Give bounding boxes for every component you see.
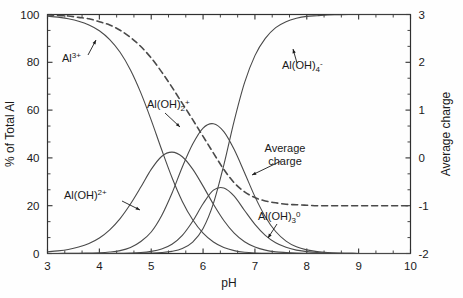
x-tick-label: 9 bbox=[355, 260, 361, 272]
annotation-label: Average bbox=[265, 142, 306, 154]
x-tick-label: 4 bbox=[96, 260, 103, 272]
annotation-arrowhead bbox=[252, 172, 256, 175]
x-tick-label: 10 bbox=[404, 260, 417, 272]
annotation-arrowhead bbox=[293, 49, 296, 53]
right-y-tick-label: 1 bbox=[419, 104, 425, 116]
annotation-label: Al(OH)30 bbox=[258, 210, 301, 225]
right-y-tick-label: 3 bbox=[419, 9, 425, 21]
speciation-chart: 345678910020406080100-2-10123pH% of Tota… bbox=[0, 0, 463, 298]
left-y-tick-label: 0 bbox=[33, 248, 39, 260]
x-axis-label: pH bbox=[221, 276, 236, 290]
annotation-leader bbox=[252, 161, 281, 175]
series-curve-aloh4 bbox=[48, 14, 411, 253]
right-y-tick-label: -1 bbox=[419, 200, 429, 212]
annotation-label: Al(OH)2+ bbox=[147, 98, 190, 113]
series-curve-aloh2 bbox=[48, 152, 411, 253]
x-tick-label: 3 bbox=[44, 260, 50, 272]
series-curve-al3 bbox=[48, 16, 411, 253]
x-tick-label: 5 bbox=[148, 260, 154, 272]
right-y-tick-label: -2 bbox=[419, 248, 429, 260]
left-y-tick-label: 20 bbox=[27, 200, 40, 212]
series-curve-aloh30 bbox=[48, 188, 411, 254]
annotation-avgcharge: Averagecharge bbox=[252, 142, 305, 175]
x-tick-label: 6 bbox=[200, 260, 206, 272]
y-right-axis-label: Average charge bbox=[439, 91, 453, 176]
annotation-aloh3: Al(OH)30 bbox=[258, 210, 301, 238]
plot-frame bbox=[48, 15, 411, 254]
annotation-al3: Al3+ bbox=[62, 40, 96, 64]
left-y-tick-label: 100 bbox=[20, 9, 39, 21]
speciation-figure: 345678910020406080100-2-10123pH% of Tota… bbox=[0, 0, 463, 298]
right-y-tick-label: 2 bbox=[419, 56, 425, 68]
left-y-tick-label: 60 bbox=[27, 104, 40, 116]
left-y-tick-label: 40 bbox=[27, 152, 40, 164]
series-curve-averagecharge bbox=[48, 15, 411, 206]
annotation-label: Al(OH)2+ bbox=[64, 188, 107, 201]
x-tick-label: 7 bbox=[252, 260, 258, 272]
annotation-arrowhead bbox=[93, 40, 96, 44]
annotation-aloh4: Al(OH)4- bbox=[282, 49, 323, 74]
left-y-tick-label: 80 bbox=[27, 56, 40, 68]
x-tick-label: 8 bbox=[304, 260, 310, 272]
annotation-arrowhead bbox=[136, 207, 140, 210]
annotation-label: Al(OH)4- bbox=[282, 59, 323, 74]
right-y-tick-label: 0 bbox=[419, 152, 425, 164]
annotation-aloh2p: Al(OH)2+ bbox=[147, 98, 190, 127]
annotation-arrowhead bbox=[268, 234, 272, 238]
y-left-axis-label: % of Total Al bbox=[3, 101, 17, 167]
annotation-label: Al3+ bbox=[62, 51, 81, 64]
